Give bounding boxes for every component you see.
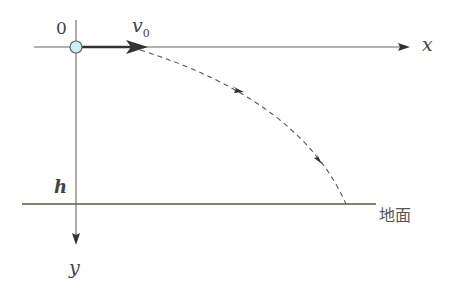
velocity-arrow [82,40,148,54]
ball-icon [70,41,82,53]
projectile-diagram: 0 v0 x y h 地面 [0,0,457,295]
y-axis-label: y [69,256,80,278]
trajectory-arrow-icon [314,152,322,164]
trajectory-path [140,50,346,204]
velocity-label: v0 [132,14,150,40]
y-axis [72,20,80,245]
ground-label: 地面 [379,202,411,226]
x-axis-label: x [422,33,433,55]
height-label: h [54,176,67,197]
velocity-subscript: 0 [143,27,150,40]
velocity-symbol: v [132,14,143,36]
origin-label: 0 [56,18,67,38]
